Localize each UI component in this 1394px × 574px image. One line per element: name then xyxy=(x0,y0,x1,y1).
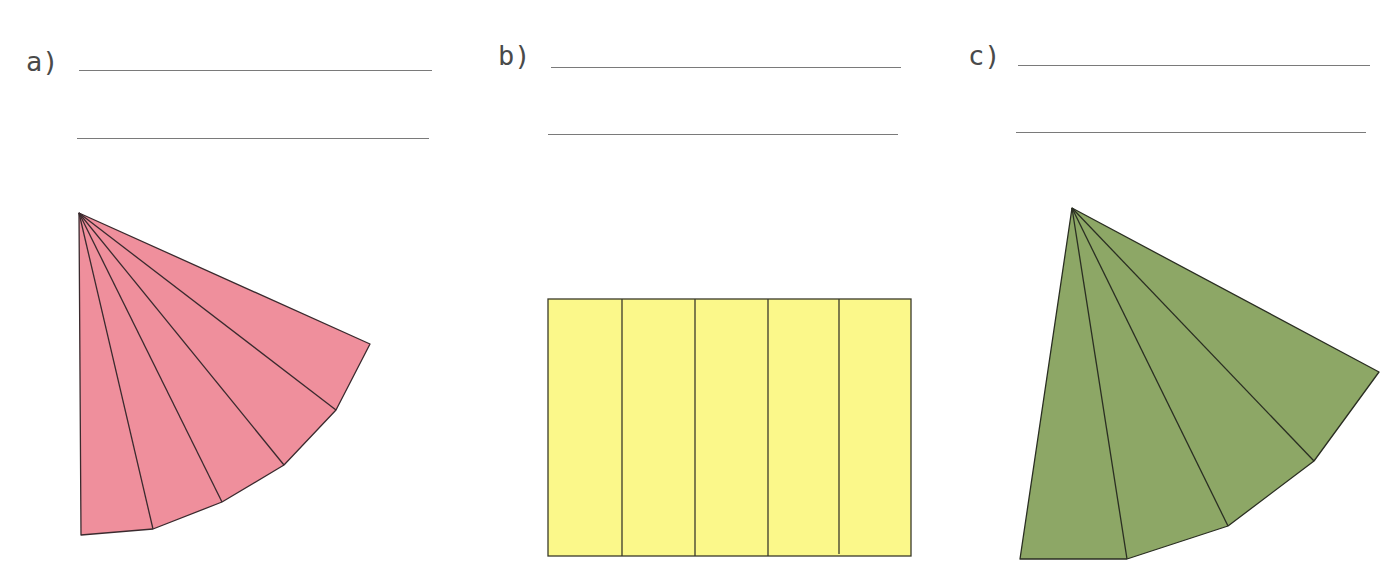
figure-c-green-cone-net xyxy=(1020,208,1379,559)
pink-net-outline xyxy=(79,213,370,535)
figure-a-pink-cone-net xyxy=(79,213,370,535)
green-net-outline xyxy=(1020,208,1379,559)
yellow-net-outline xyxy=(548,299,911,556)
figure-b-yellow-rectangle-net xyxy=(548,299,911,556)
figures-canvas xyxy=(0,0,1394,574)
